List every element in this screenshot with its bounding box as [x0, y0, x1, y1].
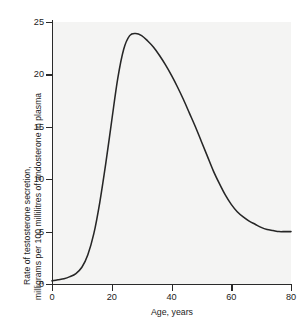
x-tick-label-0: 0 [37, 292, 67, 302]
chart-figure: Rate of testosterone secretion, milligra… [0, 0, 307, 323]
x-tick-label-40: 40 [157, 292, 187, 302]
x-tick-40 [172, 285, 173, 292]
y-tick-10 [46, 179, 53, 180]
y-tick-label-25: 25 [14, 17, 44, 27]
y-tick-label-20: 20 [14, 69, 44, 79]
x-tick-label-20: 20 [97, 292, 127, 302]
y-tick-15 [46, 127, 53, 128]
x-tick-80 [291, 285, 292, 292]
y-tick-label-15: 15 [14, 122, 44, 132]
x-tick-label-80: 80 [276, 292, 306, 302]
x-axis-label: Age, years [52, 307, 292, 317]
x-tick-20 [112, 285, 113, 292]
x-tick-0 [52, 285, 53, 292]
y-tick-label-0: 0 [14, 279, 44, 289]
y-tick-25 [46, 22, 53, 23]
y-tick-label-5: 5 [14, 227, 44, 237]
y-tick-20 [46, 74, 53, 75]
y-tick-5 [46, 232, 53, 233]
y-axis-label: Rate of testosterone secretion, milligra… [0, 0, 38, 300]
x-tick-label-60: 60 [216, 292, 246, 302]
x-tick-60 [231, 285, 232, 292]
y-axis-line [52, 20, 53, 285]
plot-area [52, 22, 291, 284]
y-tick-label-10: 10 [14, 174, 44, 184]
